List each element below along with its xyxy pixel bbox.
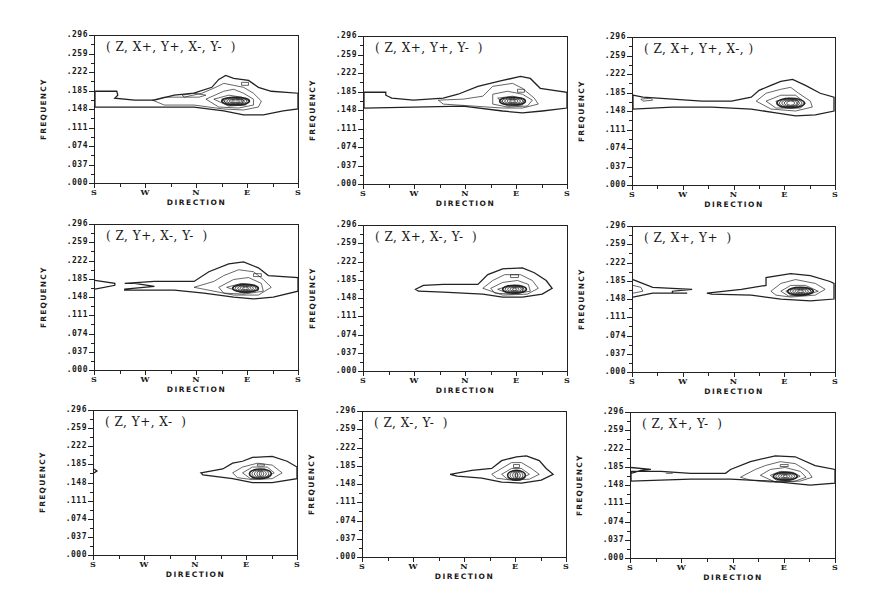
y-tick <box>89 109 94 110</box>
y-tick-label: .037 <box>590 535 624 544</box>
x-tick <box>542 184 543 188</box>
y-tick <box>359 548 362 549</box>
panel-title: ( Z, X+, Y- ) <box>642 417 722 431</box>
plot-area <box>363 225 568 372</box>
x-tick <box>388 557 389 561</box>
x-tick <box>273 370 274 374</box>
y-tick-label: .222 <box>323 257 357 266</box>
y-tick <box>627 167 632 168</box>
peak-contour <box>510 100 516 102</box>
x-tick <box>708 185 709 189</box>
y-tick <box>90 455 93 456</box>
y-tick-label: .148 <box>592 294 626 303</box>
y-tick-label: .296 <box>322 406 356 415</box>
y-tick <box>629 308 632 309</box>
y-axis-label: FREQUENCY <box>307 453 316 515</box>
plot-area <box>94 224 299 371</box>
y-tick-label: .148 <box>323 105 357 114</box>
x-tick-label: S <box>356 561 368 571</box>
y-tick-label: .222 <box>592 258 626 267</box>
contour-plot <box>631 413 835 558</box>
y-tick <box>360 138 363 139</box>
x-tick-label: E <box>510 188 522 198</box>
y-tick-label: .185 <box>322 461 356 470</box>
y-tick <box>627 458 630 459</box>
y-tick-label: .074 <box>54 329 88 338</box>
y-tick-label: .111 <box>54 123 88 132</box>
y-tick <box>358 225 363 226</box>
y-tick <box>358 262 363 263</box>
y-tick-label: .000 <box>54 365 88 374</box>
y-tick-label: .259 <box>590 425 624 434</box>
y-tick <box>91 137 94 138</box>
x-tick-label: S <box>626 189 638 199</box>
x-tick <box>272 555 273 559</box>
y-tick <box>88 537 93 538</box>
x-tick-label: E <box>241 374 253 384</box>
y-tick-label: .222 <box>54 67 88 76</box>
y-tick <box>625 485 630 486</box>
y-tick <box>360 362 363 363</box>
y-tick <box>627 263 632 264</box>
y-tick-label: .074 <box>592 143 626 152</box>
y-tick <box>360 252 363 253</box>
y-tick <box>627 148 632 149</box>
y-tick <box>627 336 632 337</box>
contour-plot <box>364 37 567 184</box>
y-tick <box>629 326 632 327</box>
y-tick <box>91 306 94 307</box>
y-tick-label: .148 <box>53 478 87 487</box>
x-tick <box>656 558 657 562</box>
y-tick <box>357 484 362 485</box>
y-tick-label: .148 <box>590 480 624 489</box>
x-tick <box>222 370 223 374</box>
y-tick <box>91 63 94 64</box>
contour-plot <box>95 36 298 183</box>
outer-contour <box>364 76 567 113</box>
y-tick-label: .037 <box>592 349 626 358</box>
y-tick <box>90 546 93 547</box>
x-tick <box>759 372 760 376</box>
x-tick-label: S <box>829 189 841 199</box>
x-tick-label: S <box>560 561 572 571</box>
contour-plot <box>363 412 566 557</box>
y-tick-label: .296 <box>590 407 624 416</box>
y-tick <box>359 420 362 421</box>
y-tick-label: .074 <box>53 514 87 523</box>
y-tick <box>625 467 630 468</box>
y-tick <box>359 493 362 494</box>
y-tick <box>90 437 93 438</box>
y-tick <box>625 540 630 541</box>
y-axis-label: FREQUENCY <box>575 454 584 516</box>
x-tick-label: W <box>677 376 689 386</box>
y-tick <box>91 361 94 362</box>
y-tick-label: .111 <box>592 125 626 134</box>
x-tick-label: N <box>190 187 202 197</box>
outer-contour <box>95 262 298 299</box>
y-tick-label: .074 <box>323 142 357 151</box>
y-tick <box>358 280 363 281</box>
x-tick <box>222 183 223 187</box>
y-tick <box>88 501 93 502</box>
y-tick <box>627 37 632 38</box>
y-tick <box>91 324 94 325</box>
y-tick <box>91 288 94 289</box>
x-tick <box>440 371 441 375</box>
x-tick-label: W <box>408 188 420 198</box>
y-tick-label: .185 <box>590 462 624 471</box>
y-tick <box>629 235 632 236</box>
y-tick <box>359 457 362 458</box>
x-tick-label: W <box>139 374 151 384</box>
y-tick-label: .148 <box>54 104 88 113</box>
y-tick <box>89 242 94 243</box>
y-tick-label: .037 <box>592 162 626 171</box>
y-tick <box>627 549 630 550</box>
panel-title: ( Z, X-, Y- ) <box>374 416 448 430</box>
x-tick <box>120 183 121 187</box>
contour-plot <box>95 225 298 370</box>
y-tick <box>627 476 630 477</box>
peak-contour <box>243 287 249 289</box>
y-tick-label: .000 <box>323 179 357 188</box>
x-axis-label: DIRECTION <box>136 570 256 579</box>
y-tick-label: .037 <box>323 348 357 357</box>
